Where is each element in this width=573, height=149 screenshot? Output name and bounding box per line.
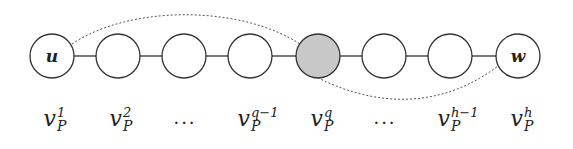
- node-vh-minus-1: [428, 34, 472, 78]
- node-vq-minus-1: [228, 34, 272, 78]
- label-vq: vqP: [311, 108, 334, 135]
- ellipsis-right: ···: [373, 112, 396, 133]
- path-diagram: u w: [0, 0, 573, 149]
- node-vq-highlighted: [296, 34, 340, 78]
- ellipsis-left: ···: [173, 112, 196, 133]
- node-v2: [96, 34, 140, 78]
- node-w-label: w: [511, 46, 527, 66]
- label-v1: v1P: [44, 108, 67, 135]
- label-v2: v2P: [110, 108, 133, 135]
- label-vq-minus-1: vq−1P: [238, 108, 279, 135]
- node-v6: [362, 34, 406, 78]
- node-v3: [162, 34, 206, 78]
- node-u-label: u: [46, 46, 58, 66]
- label-vh-minus-1: vh−1P: [438, 108, 479, 135]
- label-vh: vhP: [511, 108, 534, 135]
